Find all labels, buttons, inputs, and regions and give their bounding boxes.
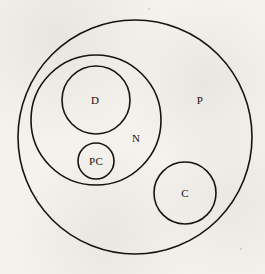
paper-speck xyxy=(206,42,207,43)
paper-speck xyxy=(240,248,242,250)
paper-speck xyxy=(18,62,19,63)
label-c: C xyxy=(181,188,189,199)
label-pc: PC xyxy=(89,156,103,167)
label-n: N xyxy=(132,133,140,144)
paper-speck xyxy=(36,196,38,198)
euler-diagram: P N D PC C xyxy=(0,0,265,274)
paper-speck xyxy=(148,8,150,10)
label-p: P xyxy=(197,95,203,106)
label-d: D xyxy=(91,95,99,106)
